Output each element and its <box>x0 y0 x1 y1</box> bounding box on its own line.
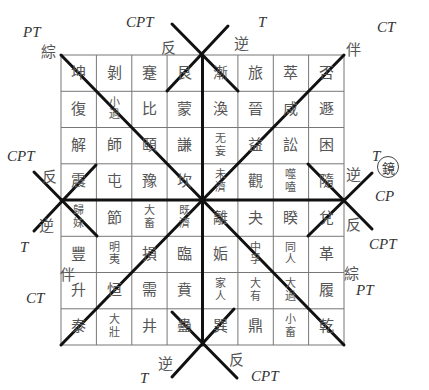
label-pt-right: PT <box>356 282 374 299</box>
hexagram-name: 解 <box>71 138 86 153</box>
hexagram-cell: 漸 <box>203 55 238 91</box>
hexagram-name: 萃 <box>283 66 298 81</box>
hexagram-cell: 家人 <box>203 273 238 309</box>
hexagram-name: 噬 <box>285 169 296 182</box>
hexagram-cell: 觀 <box>238 164 273 200</box>
hexagram-name: 訟 <box>283 138 298 153</box>
hexagram-name: 小 <box>285 314 296 327</box>
hexagram-cell: 鼎 <box>238 309 273 345</box>
label-cpt-left: CPT <box>7 148 35 165</box>
hexagram-name: 蹇 <box>142 66 157 81</box>
hexagram-cell: 渙 <box>203 91 238 127</box>
hexagram-name: 漸 <box>213 66 228 81</box>
hexagram-cell: 需 <box>132 273 167 309</box>
label-ni-left: 逆 <box>39 214 54 235</box>
hexagram-name: 師 <box>107 138 122 153</box>
label-t-left: T <box>20 239 28 256</box>
hexagram-cell: 萃 <box>273 55 308 91</box>
hexagram-name: 蠱 <box>177 319 192 334</box>
hexagram-cell: 屯 <box>96 164 131 200</box>
hexagram-cell: 中孚 <box>238 236 273 272</box>
hexagram-cell: 解 <box>61 128 96 164</box>
hexagram-name: 坤 <box>71 66 86 81</box>
hexagram-name: 困 <box>319 138 334 153</box>
label-ni-bottom: 逆 <box>158 352 173 373</box>
hexagram-cell: 睽 <box>273 200 308 236</box>
hexagram-cell: 豫 <box>132 164 167 200</box>
label-fan-right: 反 <box>346 213 361 234</box>
hexagram-cell: 同人 <box>273 236 308 272</box>
hexagram-cell: 晉 <box>238 91 273 127</box>
hexagram-cell: 離 <box>203 200 238 236</box>
hexagram-name: 履 <box>319 283 334 298</box>
hexagram-name: 乾 <box>319 319 334 334</box>
hexagram-cell: 乾 <box>309 309 344 345</box>
hexagram-cell: 恒 <box>96 273 131 309</box>
hexagram-cell: 蠱 <box>167 309 202 345</box>
hexagram-cell: 師 <box>96 128 131 164</box>
hexagram-name: 過 <box>109 109 120 122</box>
hexagram-name: 人 <box>215 291 226 304</box>
hexagram-name: 畜 <box>285 327 296 340</box>
hexagram-name: 過 <box>285 291 296 304</box>
label-pt-topleft: PT <box>23 24 41 41</box>
hexagram-name: 否 <box>319 66 334 81</box>
hexagram-name: 損 <box>142 247 157 262</box>
hexagram-name: 震 <box>71 174 86 189</box>
hexagram-name: 人 <box>285 254 296 267</box>
hexagram-cell: 艮 <box>167 55 202 91</box>
label-t-bottom: T <box>140 370 148 387</box>
hexagram-cell: 巽 <box>203 309 238 345</box>
label-cp-right: CP <box>375 188 394 205</box>
hexagram-cell: 无妄 <box>203 128 238 164</box>
hexagram-cell: 否 <box>309 55 344 91</box>
hexagram-name: 未 <box>215 169 226 182</box>
hexagram-cell: 未濟 <box>203 164 238 200</box>
hexagram-name: 升 <box>71 283 86 298</box>
hexagram-name: 孚 <box>250 254 261 267</box>
label-t-top: T <box>258 14 266 31</box>
hexagram-name: 大 <box>109 314 120 327</box>
hexagram-cell: 頤 <box>132 128 167 164</box>
hexagram-name: 恒 <box>107 283 122 298</box>
hexagram-cell: 噬嗑 <box>273 164 308 200</box>
hexagram-cell: 歸妹 <box>61 200 96 236</box>
hexagram-name: 大 <box>285 278 296 291</box>
hexagram-cell: 坤 <box>61 55 96 91</box>
hexagram-name: 剝 <box>107 66 122 81</box>
hexagram-name: 艮 <box>177 66 192 81</box>
hexagram-name: 頤 <box>142 138 157 153</box>
hexagram-name: 井 <box>142 319 157 334</box>
label-cpt-bottom: CPT <box>251 368 279 385</box>
hexagram-name: 旅 <box>248 66 263 81</box>
hexagram-cell: 大畜 <box>132 200 167 236</box>
hexagram-name: 需 <box>142 283 157 298</box>
hexagram-cell: 剝 <box>96 55 131 91</box>
hexagram-name: 泰 <box>71 319 86 334</box>
label-ban-left: 伴 <box>60 263 75 284</box>
hexagram-cell: 小過 <box>96 91 131 127</box>
hexagram-cell: 損 <box>132 236 167 272</box>
hexagram-cell: 大有 <box>238 273 273 309</box>
label-zong-right: 綜 <box>344 262 359 283</box>
label-fan-top: 反 <box>161 36 176 57</box>
hexagram-cell: 履 <box>309 273 344 309</box>
hexagram-name: 嗑 <box>285 182 296 195</box>
label-cpt-top: CPT <box>126 14 154 31</box>
hexagram-cell: 訟 <box>273 128 308 164</box>
hexagram-name: 有 <box>250 291 261 304</box>
hexagram-cell: 革 <box>309 236 344 272</box>
hexagram-name: 豫 <box>142 174 157 189</box>
hexagram-cell: 謙 <box>167 128 202 164</box>
hexagram-name: 謙 <box>177 138 192 153</box>
hexagram-cell: 賁 <box>167 273 202 309</box>
hexagram-cell: 大壯 <box>96 309 131 345</box>
hexagram-name: 咸 <box>283 102 298 117</box>
hexagram-name: 鼎 <box>248 319 263 334</box>
hexagram-cell: 復 <box>61 91 96 127</box>
hexagram-name: 革 <box>319 247 334 262</box>
hexagram-name: 巽 <box>213 319 228 334</box>
hexagram-name: 臨 <box>177 247 192 262</box>
hexagram-cell: 旅 <box>238 55 273 91</box>
label-cpt-right: CPT <box>369 236 397 253</box>
